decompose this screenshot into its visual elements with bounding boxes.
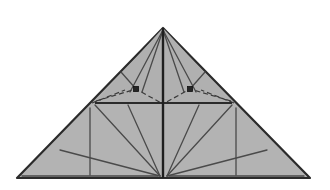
origami-crease-pattern-figure [0, 0, 330, 190]
upper-left-flap-panel [95, 28, 163, 103]
left-pleat-node [134, 87, 139, 92]
right-pleat-node [188, 87, 193, 92]
diagram-canvas [0, 0, 330, 190]
